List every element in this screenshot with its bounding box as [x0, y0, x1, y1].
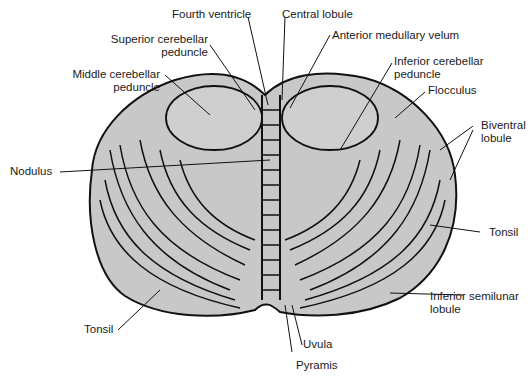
- label-biventral-lobule: Biventral lobule: [481, 119, 526, 145]
- label-text: Biventral: [481, 119, 526, 132]
- label-text: Nodulus: [10, 165, 52, 177]
- label-text: Uvula: [303, 338, 332, 350]
- label-text: peduncle: [72, 81, 160, 94]
- label-fourth-ventricle: Fourth ventricle: [172, 8, 251, 21]
- label-text: Pyramis: [296, 359, 338, 371]
- label-central-lobule: Central lobule: [282, 8, 353, 21]
- label-pyramis: Pyramis: [296, 359, 338, 372]
- label-flocculus: Flocculus: [428, 84, 477, 97]
- label-text: Anterior medullary velum: [332, 29, 459, 41]
- label-superior-cerebellar-peduncle: Superior cerebellar peduncle: [110, 33, 208, 59]
- label-uvula: Uvula: [303, 338, 332, 351]
- label-text: Tonsil: [489, 226, 518, 238]
- label-text: peduncle: [110, 46, 208, 59]
- label-tonsil-right: Tonsil: [489, 226, 518, 239]
- label-text: Superior cerebellar: [110, 33, 208, 46]
- label-inferior-cerebellar-peduncle: Inferior cerebellar peduncle: [394, 55, 483, 81]
- label-text: Central lobule: [282, 8, 353, 20]
- label-text: Middle cerebellar: [72, 68, 160, 81]
- label-text: lobule: [430, 303, 519, 316]
- label-text: Inferior cerebellar: [394, 55, 483, 68]
- label-nodulus: Nodulus: [10, 165, 52, 178]
- label-middle-cerebellar-peduncle: Middle cerebellar peduncle: [72, 68, 160, 94]
- label-text: Inferior semilunar: [430, 290, 519, 303]
- cerebellum-diagram: Fourth ventricle Central lobule Superior…: [0, 0, 531, 384]
- label-anterior-medullary-velum: Anterior medullary velum: [332, 29, 459, 42]
- label-text: Tonsil: [84, 323, 113, 335]
- label-inferior-semilunar-lobule: Inferior semilunar lobule: [430, 290, 519, 316]
- label-text: peduncle: [394, 68, 483, 81]
- label-tonsil-left: Tonsil: [84, 323, 113, 336]
- label-text: lobule: [481, 132, 526, 145]
- label-text: Fourth ventricle: [172, 8, 251, 20]
- label-text: Flocculus: [428, 84, 477, 96]
